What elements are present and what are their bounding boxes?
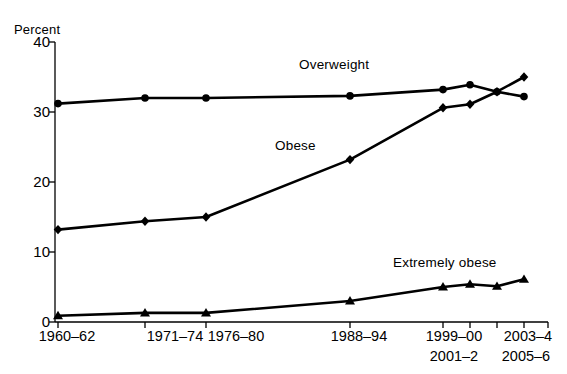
series-line [58, 85, 524, 104]
data-point-marker [466, 100, 475, 109]
data-point-marker [519, 274, 529, 282]
data-point-marker [493, 87, 502, 96]
obesity-trend-chart: Percent 40 30 20 10 0 1960–62 1971–74 19… [0, 0, 567, 374]
data-point-marker [439, 86, 447, 94]
plot-area [0, 0, 567, 374]
series-extremely-obese [53, 274, 529, 319]
data-point-marker [141, 94, 149, 102]
data-point-marker [466, 81, 474, 89]
data-point-marker [141, 217, 150, 226]
series-overweight [54, 81, 528, 108]
data-point-marker [520, 93, 528, 101]
data-point-marker [346, 155, 355, 164]
series-line [58, 279, 524, 315]
data-point-marker [520, 72, 529, 81]
data-point-marker [202, 94, 210, 102]
data-point-marker [54, 100, 62, 108]
data-point-marker [346, 92, 354, 100]
data-point-marker [439, 103, 448, 112]
data-point-marker [202, 212, 211, 221]
